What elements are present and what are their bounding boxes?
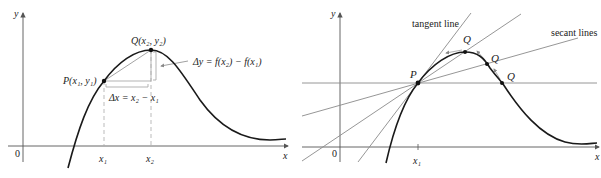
secant-line-1 [302, 38, 578, 116]
right-tick-x1-label: x₁ [412, 155, 421, 166]
point-p [102, 79, 106, 83]
tick-x2-label: x₂ [145, 153, 154, 164]
left-x-label: x [282, 150, 288, 161]
point-p-right [416, 81, 421, 86]
right-point-p-label: P [409, 68, 417, 80]
point-q2 [485, 62, 489, 66]
left-panel: y x 0 P(x₁, y₁) Q(x₂, y₂) Δy = f(x₂) − f… [8, 8, 288, 168]
delta-x-bracket [106, 84, 148, 87]
point-q [149, 48, 153, 52]
q-label-3: Q [507, 70, 515, 82]
delta-y-label: Δy = f(x₂) − f(x₁) [192, 56, 262, 68]
tick-x1-label: x₁ [98, 153, 107, 164]
q-label-1: Q [463, 33, 471, 45]
right-y-label: y [330, 8, 336, 19]
right-origin-label: 0 [332, 148, 337, 159]
diagram-canvas: y x 0 P(x₁, y₁) Q(x₂, y₂) Δy = f(x₂) − f… [0, 0, 601, 178]
delta-x-label: Δx = x₂ − x₁ [108, 92, 159, 103]
right-x-label: x [594, 151, 600, 162]
secant-pq [104, 50, 151, 81]
delta-y-bracket [153, 52, 156, 80]
right-panel: y x 0 x₁ P Q Q Q tangent line secant lin… [302, 8, 600, 166]
secant-line-2 [302, 14, 521, 161]
tangent-line-label: tangent line [412, 18, 459, 29]
point-q3 [500, 81, 504, 85]
secant-lines-label: secant lines [551, 27, 597, 38]
q-label-2: Q [491, 52, 499, 64]
point-q-label: Q(x₂, y₂) [131, 35, 166, 47]
left-origin-label: 0 [15, 148, 20, 159]
left-curve [68, 50, 286, 168]
point-p-label: P(x₁, y₁) [62, 75, 97, 87]
point-q1 [463, 50, 467, 54]
left-y-label: y [13, 8, 19, 19]
